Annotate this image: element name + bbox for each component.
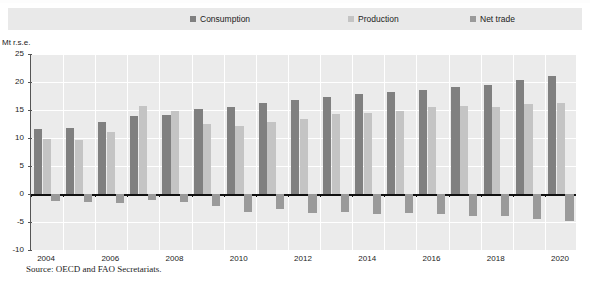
y-tick-label: 10: [0, 133, 24, 142]
x-gridline: [545, 54, 546, 250]
bar-consumption-2020[interactable]: [548, 76, 556, 194]
y-tick-label: -5: [0, 217, 24, 226]
bar-production-2019[interactable]: [524, 104, 532, 194]
bar-production-2016[interactable]: [428, 107, 436, 194]
y-tick-label: 25: [0, 49, 24, 58]
x-tick-mark: [481, 194, 482, 197]
bar-net-trade-2008[interactable]: [180, 194, 188, 202]
bar-consumption-2004[interactable]: [34, 129, 42, 194]
x-gridline: [159, 54, 160, 250]
x-tick-label: 2016: [411, 254, 451, 263]
cropped-title-strip: [0, 0, 590, 3]
bar-consumption-2009[interactable]: [194, 109, 202, 194]
x-tick-mark: [352, 194, 353, 197]
chart-plot-wrapper: -10-505101520252004200620082010201220142…: [0, 50, 590, 258]
bar-consumption-2006[interactable]: [98, 122, 106, 194]
bar-consumption-2014[interactable]: [355, 94, 363, 194]
x-tick-label: 2006: [90, 254, 130, 263]
bar-production-2008[interactable]: [171, 111, 179, 194]
bar-production-2014[interactable]: [364, 113, 372, 194]
bar-net-trade-2017[interactable]: [469, 194, 477, 216]
bar-production-2020[interactable]: [557, 103, 565, 194]
legend-label-production: Production: [358, 14, 399, 24]
bar-consumption-2011[interactable]: [259, 103, 267, 194]
y-tick-label: 15: [0, 105, 24, 114]
x-gridline: [320, 54, 321, 250]
bar-consumption-2013[interactable]: [323, 97, 331, 194]
bar-net-trade-2005[interactable]: [84, 194, 92, 202]
bar-production-2010[interactable]: [235, 126, 243, 194]
x-tick-label: 2012: [283, 254, 323, 263]
x-gridline: [224, 54, 225, 250]
bar-production-2015[interactable]: [396, 111, 404, 194]
bar-net-trade-2016[interactable]: [437, 194, 445, 214]
x-gridline: [481, 54, 482, 250]
bar-production-2007[interactable]: [139, 106, 147, 194]
bar-consumption-2019[interactable]: [516, 80, 524, 194]
legend-item-production[interactable]: Production: [348, 12, 399, 26]
bar-net-trade-2006[interactable]: [116, 194, 124, 203]
bar-net-trade-2020[interactable]: [565, 194, 573, 221]
bar-net-trade-2013[interactable]: [341, 194, 349, 212]
legend-item-net-trade[interactable]: Net trade: [470, 12, 515, 26]
chart-plot-area: [30, 54, 576, 250]
y-tick-mark: [28, 222, 32, 223]
bar-net-trade-2018[interactable]: [501, 194, 509, 216]
x-gridline: [256, 54, 257, 250]
x-tick-mark: [320, 194, 321, 197]
bar-net-trade-2007[interactable]: [148, 194, 156, 200]
bar-production-2013[interactable]: [332, 114, 340, 194]
bar-production-2004[interactable]: [43, 139, 51, 194]
legend-item-consumption[interactable]: Consumption: [190, 12, 250, 26]
legend-swatch-production: [348, 16, 354, 22]
bar-consumption-2005[interactable]: [66, 128, 74, 194]
y-axis-unit-label: Mt r.s.e.: [2, 38, 30, 47]
bar-production-2006[interactable]: [107, 132, 115, 194]
x-tick-mark: [127, 194, 128, 197]
bar-consumption-2007[interactable]: [130, 116, 138, 194]
bar-production-2011[interactable]: [267, 122, 275, 194]
bar-production-2005[interactable]: [75, 140, 83, 194]
bar-consumption-2018[interactable]: [484, 85, 492, 194]
bar-production-2017[interactable]: [460, 106, 468, 194]
bar-production-2012[interactable]: [300, 119, 308, 194]
bar-net-trade-2010[interactable]: [244, 194, 252, 212]
bar-consumption-2010[interactable]: [227, 107, 235, 194]
x-tick-mark: [224, 194, 225, 197]
x-tick-label: 2014: [347, 254, 387, 263]
bar-consumption-2008[interactable]: [162, 115, 170, 194]
y-tick-label: -10: [0, 245, 24, 254]
x-tick-mark: [513, 194, 514, 197]
bar-net-trade-2009[interactable]: [212, 194, 220, 206]
y-tick-label: 0: [0, 189, 24, 198]
bar-consumption-2012[interactable]: [291, 100, 299, 194]
x-gridline: [63, 54, 64, 250]
x-gridline: [449, 54, 450, 250]
x-tick-mark: [288, 194, 289, 197]
y-gridline: [31, 222, 576, 223]
x-gridline: [95, 54, 96, 250]
y-tick-label: 5: [0, 161, 24, 170]
bar-net-trade-2011[interactable]: [276, 194, 284, 209]
bar-consumption-2016[interactable]: [419, 90, 427, 194]
y-gridline: [31, 54, 576, 55]
y-tick-mark: [28, 110, 32, 111]
y-tick-label: 20: [0, 77, 24, 86]
bar-net-trade-2012[interactable]: [308, 194, 316, 213]
bar-net-trade-2004[interactable]: [51, 194, 59, 201]
y-tick-mark: [28, 166, 32, 167]
bar-production-2018[interactable]: [492, 107, 500, 194]
bar-production-2009[interactable]: [203, 124, 211, 194]
bar-net-trade-2019[interactable]: [533, 194, 541, 219]
bar-net-trade-2015[interactable]: [405, 194, 413, 213]
bar-consumption-2015[interactable]: [387, 92, 395, 194]
bar-net-trade-2014[interactable]: [373, 194, 381, 214]
x-gridline: [192, 54, 193, 250]
zero-axis-line: [31, 194, 576, 196]
x-tick-mark: [545, 194, 546, 197]
bar-consumption-2017[interactable]: [451, 87, 459, 194]
source-note: Source: OECD and FAO Secretariats.: [26, 264, 162, 274]
x-tick-mark: [31, 194, 32, 197]
legend-label-consumption: Consumption: [200, 14, 250, 24]
x-gridline: [288, 54, 289, 250]
